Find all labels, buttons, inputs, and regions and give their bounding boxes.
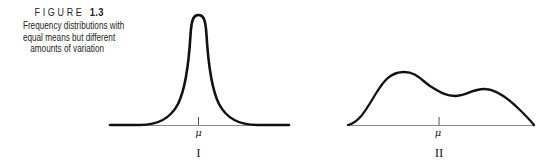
distribution-plots: μ I μ II: [0, 0, 560, 167]
curve-II: [348, 72, 534, 125]
panel-label-II: II: [435, 145, 444, 160]
mean-symbol-I: μ: [195, 127, 202, 138]
mean-symbol-II: μ: [435, 127, 442, 138]
curve-I: [110, 15, 289, 125]
panel-I: μ I: [110, 15, 290, 160]
panel-label-I: I: [196, 145, 200, 160]
panel-II: μ II: [348, 72, 534, 160]
